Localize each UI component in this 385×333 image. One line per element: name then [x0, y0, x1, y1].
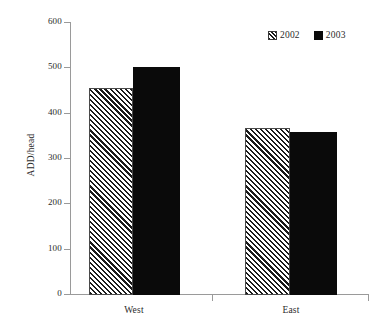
y-tick-label-0: 0 [22, 289, 62, 298]
bar-west-2002 [89, 88, 133, 295]
y-tick-label-300: 300 [22, 153, 62, 162]
y-tick-label-600: 600 [22, 17, 62, 26]
y-tick-label-600-wrap: 600 [16, 17, 62, 26]
solid-swatch-icon [314, 31, 323, 40]
y-tick-label-0-wrap: 0 [16, 289, 62, 298]
y-axis-line [70, 22, 71, 295]
x-tick-end [368, 295, 369, 301]
y-tick-label-100-wrap: 100 [16, 244, 62, 253]
y-tick-label-200: 200 [22, 198, 62, 207]
chart-figure: ADD/head 600 500 400 300 200 100 [0, 0, 385, 333]
legend-label-2002: 2002 [280, 30, 300, 40]
y-tick-600 [64, 22, 70, 23]
plot-area: ADD/head 600 500 400 300 200 100 [0, 0, 385, 333]
y-tick-500 [64, 67, 70, 68]
y-tick-label-500-wrap: 500 [16, 62, 62, 71]
x-tick-separator [212, 295, 213, 301]
y-tick-label-400: 400 [22, 108, 62, 117]
legend-entry-2003: 2003 [314, 30, 346, 40]
y-tick-400 [64, 113, 70, 114]
legend: 2002 2003 [268, 30, 346, 40]
y-tick-label-300-wrap: 300 [16, 153, 62, 162]
bar-west-2003 [133, 67, 180, 295]
x-category-label-west: West [104, 305, 164, 316]
y-tick-label-100: 100 [22, 244, 62, 253]
x-category-label-east: East [261, 305, 321, 316]
y-tick-label-200-wrap: 200 [16, 198, 62, 207]
y-tick-label-400-wrap: 400 [16, 108, 62, 117]
y-tick-0 [64, 294, 70, 295]
legend-entry-2002: 2002 [268, 30, 300, 40]
bar-east-2003 [290, 132, 337, 295]
bar-east-2002 [245, 128, 290, 295]
y-tick-300 [64, 158, 70, 159]
y-tick-200 [64, 203, 70, 204]
y-tick-100 [64, 249, 70, 250]
y-tick-label-500: 500 [22, 62, 62, 71]
legend-label-2003: 2003 [326, 30, 346, 40]
hatched-swatch-icon [268, 31, 277, 40]
